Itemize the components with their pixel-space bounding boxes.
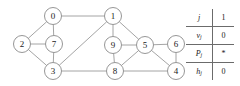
graph-edge [152,50,170,65]
graph-node-7[interactable]: 7 [46,36,63,53]
state-row-value: * [213,45,235,63]
state-row-label: vj [186,27,213,45]
state-table-row: Pj* [186,45,234,63]
node-label: 3 [51,66,56,76]
state-row-label-subscript: j [201,52,203,58]
graph-node-1[interactable]: 1 [105,8,122,25]
graph-node-6[interactable]: 6 [168,36,185,53]
graph-node-8[interactable]: 8 [107,63,124,80]
graph-node-2[interactable]: 2 [14,36,31,53]
node-label: 7 [52,39,57,49]
node-label: 8 [113,66,118,76]
node-label: 0 [51,11,56,21]
graph-edge [114,53,115,62]
graph-node-4[interactable]: 4 [168,63,185,80]
node-label: 2 [20,39,25,49]
state-row-value: 0 [213,27,235,45]
state-table-container: j1vj0Pj*hj0 [186,9,234,77]
state-row-label: hj [186,63,213,81]
graph-node-3[interactable]: 3 [45,63,62,80]
state-table-row: hj0 [186,63,234,81]
state-row-label: Pj [186,45,213,63]
state-row-label-subscript: j [200,70,202,76]
state-row-value: 0 [213,63,235,81]
graph-edge [119,22,138,40]
graph-node-9[interactable]: 9 [105,37,122,54]
node-label: 5 [143,40,148,50]
state-row-label-subscript: j [200,34,202,40]
graph-node-5[interactable]: 5 [137,37,154,54]
graph-edge [28,50,46,66]
graph-edge [59,22,106,66]
node-label: 4 [174,66,179,76]
node-label: 6 [174,39,179,49]
figure-container: 0127956384 j1vj0Pj*hj0 [0,0,240,86]
node-layer: 0127956384 [14,8,185,80]
node-label: 9 [111,40,116,50]
state-row-value: 1 [213,9,235,27]
state-table: j1vj0Pj*hj0 [186,9,234,80]
state-table-row: vj0 [186,27,234,45]
state-row-label: j [186,9,213,27]
graph-node-0[interactable]: 0 [45,8,62,25]
node-label: 1 [111,11,116,21]
graph-edge [28,22,46,39]
graph-edge [121,51,138,66]
state-table-row: j1 [186,9,234,27]
